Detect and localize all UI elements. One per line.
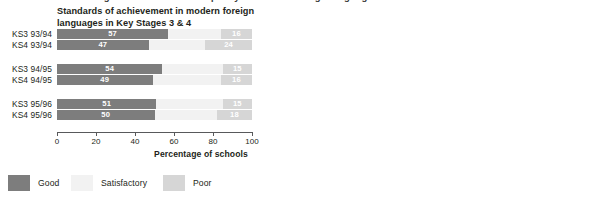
- bar-value-good: 54: [57, 65, 162, 73]
- bar-segment-good: 54: [57, 64, 162, 74]
- x-axis-tick: [174, 132, 175, 136]
- bar-segment-good: 50: [57, 110, 155, 120]
- category-label: KS4 94/95: [12, 76, 52, 85]
- bar-segment-good: 47: [57, 40, 149, 50]
- legend-swatch-satisfactory-icon: [71, 175, 93, 191]
- bar-segment-poor: 24: [205, 40, 252, 50]
- x-axis-tick-label: 40: [131, 137, 140, 146]
- legend-label: Poor: [193, 178, 212, 188]
- x-axis-tick-label: 0: [55, 137, 59, 146]
- bar-value-poor: 16: [221, 76, 252, 84]
- legend-item-satisfactory: Satisfactory: [71, 173, 147, 193]
- bar-segment-good: 49: [57, 75, 153, 85]
- legend-item-good: Good: [8, 173, 59, 193]
- bar-segment-poor: 18: [217, 110, 252, 120]
- bar-segment-satisfactory: [149, 40, 206, 50]
- category-label: KS3 94/95: [12, 65, 52, 74]
- table-row: KS3 95/96 51 15: [57, 99, 252, 109]
- bar-segment-poor: 16: [221, 75, 252, 85]
- bar-group-9596: KS3 95/96 51 15 KS4 95/96 50: [57, 99, 252, 121]
- x-axis-tick: [57, 132, 58, 136]
- panel-title: Standards of achievement in modern forei…: [57, 6, 297, 29]
- x-axis-line: [57, 132, 252, 133]
- legend-label: Good: [38, 178, 59, 188]
- x-axis-tick: [252, 132, 253, 136]
- table-row: KS4 94/95 49 16: [57, 75, 252, 85]
- legend-label: Satisfactory: [101, 178, 147, 188]
- bar-value-poor: 18: [217, 111, 252, 119]
- bar-segment-satisfactory: [156, 99, 222, 109]
- bar-segment-satisfactory: [162, 64, 222, 74]
- table-row: KS4 95/96 50 18: [57, 110, 252, 120]
- bar-segment-poor: 15: [223, 64, 252, 74]
- bar-segment-poor: 15: [223, 99, 252, 109]
- bar-segment-satisfactory: [153, 75, 221, 85]
- legend-swatch-good-icon: [8, 175, 30, 191]
- table-row: KS4 93/94 47 24: [57, 40, 252, 50]
- bar-segment-satisfactory: [155, 110, 217, 120]
- bar-value-good: 50: [57, 111, 155, 119]
- x-axis-tick-label: 20: [92, 137, 101, 146]
- bar-value-poor: 15: [223, 100, 252, 108]
- plot-area-standards: KS3 93/94 57 16 KS4 93/94 47: [57, 29, 252, 132]
- x-axis-tick-label: 100: [245, 137, 258, 146]
- panel-standards-of-achievement: Standards of achievement in modern forei…: [0, 0, 308, 145]
- category-label: KS4 93/94: [12, 41, 52, 50]
- bar-segment-satisfactory: [168, 29, 221, 39]
- bar-segment-poor: 16: [221, 29, 252, 39]
- legend-item-poor: Poor: [163, 173, 212, 193]
- x-axis-tick: [135, 132, 136, 136]
- category-label: KS4 95/96: [12, 111, 52, 120]
- bar-value-poor: 15: [223, 65, 252, 73]
- legend-swatch-poor-icon: [163, 175, 185, 191]
- bar-segment-good: 51: [57, 99, 156, 109]
- figure-standards-and-quality-mfl: Figure 8 Standards and quality in modern…: [0, 0, 615, 198]
- x-axis-tick-label: 60: [170, 137, 179, 146]
- table-row: KS3 94/95 54 15: [57, 64, 252, 74]
- panel-quality-of-teaching: Quality of teaching in modern foreign la…: [308, 0, 615, 145]
- table-row: KS3 93/94 57 16: [57, 29, 252, 39]
- bar-group-9394: KS3 93/94 57 16 KS4 93/94 47: [57, 29, 252, 51]
- bar-value-good: 57: [57, 30, 168, 38]
- bar-segment-good: 57: [57, 29, 168, 39]
- x-axis-tick: [96, 132, 97, 136]
- x-axis-tick-label: 80: [209, 137, 218, 146]
- bar-value-good: 47: [57, 41, 149, 49]
- bar-value-poor: 24: [205, 41, 252, 49]
- bar-group-9495: KS3 94/95 54 15 KS4 94/95 49: [57, 64, 252, 86]
- category-label: KS3 93/94: [12, 30, 52, 39]
- bar-value-good: 51: [57, 100, 156, 108]
- x-axis-title: Percentage of schools: [0, 149, 402, 159]
- x-axis-tick: [213, 132, 214, 136]
- bar-value-poor: 16: [221, 30, 252, 38]
- bar-value-good: 49: [57, 76, 153, 84]
- category-label: KS3 95/96: [12, 100, 52, 109]
